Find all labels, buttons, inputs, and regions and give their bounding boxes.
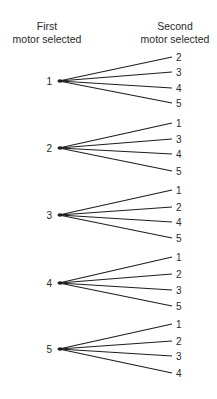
second-motor-label: 4 <box>176 368 182 379</box>
second-motor-label: 1 <box>176 118 182 129</box>
branch-line <box>59 72 172 81</box>
first-motor-label: 5 <box>46 344 52 355</box>
first-motor-label: 2 <box>46 143 52 154</box>
first-motor-label: 1 <box>46 76 52 87</box>
second-motor-label: 5 <box>176 301 182 312</box>
second-motor-label: 1 <box>176 185 182 196</box>
branch-line <box>59 57 172 81</box>
node-point <box>58 213 63 217</box>
second-motor-label: 3 <box>176 134 182 145</box>
second-motor-label: 2 <box>176 336 182 347</box>
second-motor-label: 1 <box>176 319 182 330</box>
second-motor-label: 4 <box>176 149 182 160</box>
second-motor-label: 4 <box>176 83 182 94</box>
node-point <box>58 79 63 83</box>
node-point <box>58 347 63 351</box>
second-motor-label: 3 <box>176 67 182 78</box>
second-motor-label: 1 <box>176 252 182 263</box>
second-motor-label: 2 <box>176 52 182 63</box>
branch-group-4: 41235 <box>46 252 182 312</box>
second-motor-label: 2 <box>176 202 182 213</box>
first-motor-label: 3 <box>46 210 52 221</box>
node-point <box>58 281 63 285</box>
branch-line <box>59 123 172 148</box>
node-point <box>58 146 63 150</box>
second-motor-label: 4 <box>176 217 182 228</box>
first-motor-label: 4 <box>46 278 52 289</box>
second-motor-label: 5 <box>176 166 182 177</box>
branch-group-5: 51234 <box>46 319 182 379</box>
second-motor-label: 3 <box>176 285 182 296</box>
branch-group-2: 21345 <box>46 118 182 177</box>
branch-group-3: 31245 <box>46 185 182 244</box>
second-motor-label: 3 <box>176 351 182 362</box>
tree-diagram: 1234521345312454123551234 <box>0 0 217 399</box>
second-motor-label: 5 <box>176 233 182 244</box>
second-motor-label: 2 <box>176 269 182 280</box>
branch-line <box>59 139 172 148</box>
second-motor-label: 5 <box>176 98 182 109</box>
branch-group-1: 12345 <box>46 52 182 109</box>
